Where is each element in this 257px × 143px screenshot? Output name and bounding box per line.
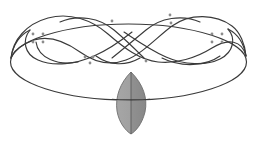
crossing-dot [221,41,224,44]
outer-ellipse-bottom-over-lens [112,99,150,100]
crossing-dot [211,41,214,44]
crossing-dot [221,33,224,36]
crossing-dot [42,33,45,36]
knot-diagram-figure [0,0,257,143]
shaded-lens-group [112,72,150,134]
crossing-dot [92,56,95,59]
crossing-dot [111,20,114,23]
braid-scallop-left [36,42,78,63]
braid-strand-1 [11,16,246,62]
crossing-dot [32,41,35,44]
braid-strand-group [11,16,246,65]
crossing-dot [211,33,214,36]
crossing-dot [89,62,92,65]
crossing-dot [170,22,173,25]
braid-strand-3 [25,30,132,64]
crossing-dot [169,14,172,17]
crossing-dot [42,41,45,44]
knot-diagram-canvas [0,0,257,143]
crossing-dot [32,33,35,36]
crossing-dot [145,60,148,63]
crossing-dot [84,56,87,59]
